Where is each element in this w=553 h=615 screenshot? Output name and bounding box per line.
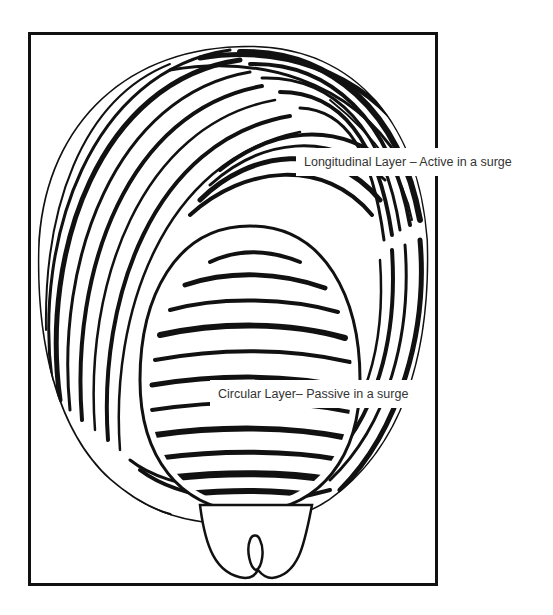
uterus-illustration [0, 0, 553, 615]
circular-layer-label: Circular Layer– Passive in a surge [210, 380, 416, 408]
cervix [200, 505, 312, 578]
longitudinal-layer-label: Longitudinal Layer – Active in a surge [296, 148, 520, 176]
